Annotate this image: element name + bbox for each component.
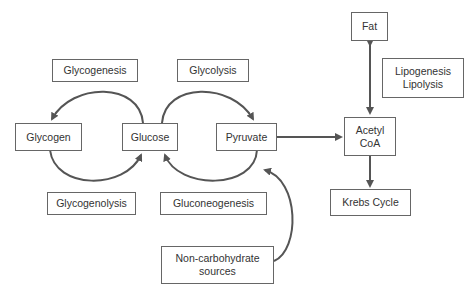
glycolysis-label: Glycolysis <box>177 59 249 82</box>
krebs-cycle-node: Krebs Cycle <box>330 189 411 216</box>
glycolysis-arrow <box>162 92 253 123</box>
non-carbohydrate-sources-node: Non-carbohydrate sources <box>161 246 274 284</box>
acetyl-coa-node: Acetyl CoA <box>344 117 396 156</box>
lipogenesis-lipolysis-label: Lipogenesis Lipolysis <box>382 58 464 98</box>
gluconeogenesis-label: Gluconeogenesis <box>160 192 267 215</box>
glycogenesis-label: Glycogenesis <box>52 59 138 82</box>
glycogenolysis-label: Glycogenolysis <box>47 192 136 215</box>
metabolism-diagram: Glycogenesis Glycolysis Glycogen Glucose… <box>0 0 475 297</box>
fat-node: Fat <box>351 12 388 41</box>
glycogenesis-arrow <box>52 92 143 123</box>
glucose-node: Glucose <box>122 123 178 151</box>
gluconeogenesis-arrow <box>165 150 257 181</box>
pyruvate-node: Pyruvate <box>216 123 277 151</box>
glycogenolysis-arrow <box>50 150 141 181</box>
glycogen-node: Glycogen <box>15 123 82 151</box>
